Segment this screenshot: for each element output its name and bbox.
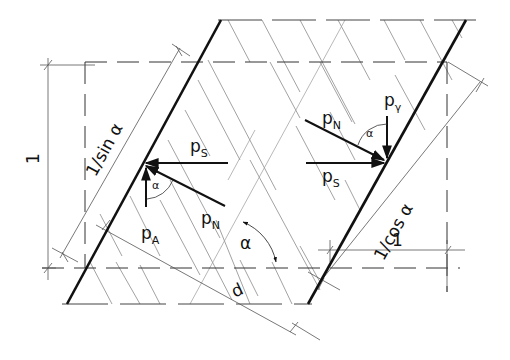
label-right-p-n-base: p bbox=[322, 108, 333, 128]
label-left-p-a-base: p bbox=[141, 223, 152, 243]
label-left-p-n: pN bbox=[201, 210, 220, 227]
label-left-p-s-base: p bbox=[190, 136, 201, 156]
label-left-p-s: pS bbox=[190, 138, 208, 155]
label-right-p-s-base: p bbox=[322, 166, 333, 186]
label-angle-main: α bbox=[240, 235, 251, 252]
label-angle-right: α bbox=[366, 128, 373, 139]
label-right-p-s-sub: S bbox=[333, 177, 340, 190]
label-right-p-n: pN bbox=[322, 110, 341, 127]
label-left-p-n-base: p bbox=[201, 208, 212, 228]
right-force-vectors bbox=[305, 116, 387, 163]
label-right-p-s: pS bbox=[322, 168, 340, 185]
label-dimension-vertical: 1 bbox=[25, 153, 42, 164]
label-right-p-gamma-base: p bbox=[384, 90, 395, 110]
label-right-p-n-sub: N bbox=[333, 119, 341, 132]
label-left-p-n-sub: N bbox=[212, 219, 220, 232]
label-left-p-a-sub: A bbox=[152, 234, 160, 247]
label-left-p-a: pA bbox=[141, 225, 159, 242]
label-angle-left: α bbox=[152, 180, 159, 191]
diagram-canvas bbox=[0, 0, 510, 360]
wall-faces bbox=[67, 20, 466, 304]
label-left-p-s-sub: S bbox=[201, 147, 208, 160]
label-right-p-gamma-sub: γ bbox=[395, 101, 402, 114]
label-dimension-horizontal: 1 bbox=[392, 232, 403, 249]
label-right-p-gamma: pγ bbox=[384, 92, 401, 109]
left-angle-arc bbox=[147, 180, 173, 199]
boundary-lines bbox=[62, 20, 476, 304]
